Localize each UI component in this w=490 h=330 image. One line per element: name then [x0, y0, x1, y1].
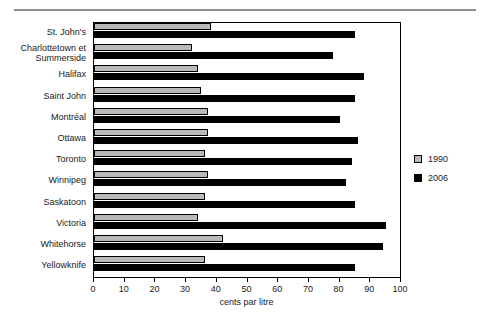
bar-row: Victoria [0, 214, 490, 235]
bar-1990 [94, 193, 205, 200]
x-tick [308, 278, 309, 282]
header-rule [14, 9, 476, 11]
category-label: St. John's [0, 27, 86, 37]
bar-row: Halifax [0, 65, 490, 86]
x-tick [216, 278, 217, 282]
x-tick [124, 278, 125, 282]
bar-row: Yellowknife [0, 256, 490, 277]
bar-2006 [94, 137, 358, 144]
bar-row: Saint John [0, 87, 490, 108]
x-tick [185, 278, 186, 282]
legend-label-2006: 2006 [428, 173, 448, 183]
x-tick [369, 278, 370, 282]
bar-row: Saskatoon [0, 193, 490, 214]
x-tick-label: 20 [137, 284, 171, 294]
x-tick [339, 278, 340, 282]
category-label: Halifax [0, 69, 86, 79]
category-label: Whitehorse [0, 239, 86, 249]
x-tick [154, 278, 155, 282]
bar-row: St. John's [0, 23, 490, 44]
category-label: Saint John [0, 91, 86, 101]
x-tick-label: 50 [230, 284, 264, 294]
x-tick-label: 60 [260, 284, 294, 294]
x-tick [93, 278, 94, 282]
bar-1990 [94, 44, 192, 51]
bar-2006 [94, 52, 333, 59]
category-label: Yellowknife [0, 260, 86, 270]
bar-2006 [94, 95, 355, 102]
bar-1990 [94, 87, 201, 94]
x-tick [247, 278, 248, 282]
bar-2006 [94, 264, 355, 271]
x-tick-label: 80 [322, 284, 356, 294]
bar-2006 [94, 243, 383, 250]
legend-item-2006: 2006 [414, 171, 448, 185]
category-label: Ottawa [0, 133, 86, 143]
category-label: Victoria [0, 218, 86, 228]
category-label: Montréal [0, 112, 86, 122]
bar-2006 [94, 201, 355, 208]
bar-2006 [94, 31, 355, 38]
bar-2006 [94, 179, 346, 186]
legend-swatch-2006 [414, 174, 422, 182]
legend-item-1990: 1990 [414, 152, 448, 166]
bar-1990 [94, 235, 223, 242]
bar-row: Montréal [0, 108, 490, 129]
x-tick-label: 0 [76, 284, 110, 294]
x-axis-label: cents par litre [93, 297, 400, 307]
chart-figure: 0102030405060708090100 cents par litre S… [0, 0, 490, 330]
x-tick [277, 278, 278, 282]
bar-1990 [94, 23, 211, 30]
bar-row: Ottawa [0, 129, 490, 150]
bar-2006 [94, 222, 386, 229]
bar-row: Charlottetown etSummerside [0, 44, 490, 65]
bar-row: Whitehorse [0, 235, 490, 256]
x-tick-label: 40 [199, 284, 233, 294]
bar-1990 [94, 129, 208, 136]
bar-1990 [94, 214, 198, 221]
category-label: Charlottetown etSummerside [0, 43, 86, 63]
bar-1990 [94, 256, 205, 263]
x-tick [400, 278, 401, 282]
category-label: Toronto [0, 154, 86, 164]
category-label: Saskatoon [0, 197, 86, 207]
category-label: Winnipeg [0, 175, 86, 185]
chart-title-clipped [0, 0, 490, 9]
x-tick-label: 30 [168, 284, 202, 294]
legend-swatch-1990 [414, 155, 422, 163]
x-tick-label: 10 [107, 284, 141, 294]
bar-1990 [94, 65, 198, 72]
legend-label-1990: 1990 [428, 154, 448, 164]
bar-2006 [94, 158, 352, 165]
bar-2006 [94, 116, 340, 123]
bar-1990 [94, 171, 208, 178]
chart-legend: 1990 2006 [414, 152, 448, 190]
x-tick-label: 70 [291, 284, 325, 294]
bar-1990 [94, 108, 208, 115]
x-tick-label: 90 [352, 284, 386, 294]
bar-2006 [94, 73, 364, 80]
x-tick-label: 100 [383, 284, 417, 294]
bar-1990 [94, 150, 205, 157]
